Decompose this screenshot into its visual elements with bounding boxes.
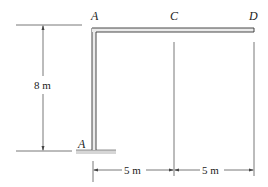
arrowhead-right-icon [249, 169, 254, 172]
point-label-d: D [248, 9, 258, 23]
arrowhead-down-icon [42, 146, 45, 151]
span-bc-label: 5 m [124, 164, 141, 176]
arrowhead-left-icon [93, 169, 98, 172]
arrowhead-left-icon [174, 169, 179, 172]
point-label-b: A [90, 9, 99, 23]
point-label-a: A [77, 137, 86, 151]
arrowhead-right-icon [169, 169, 174, 172]
beam-bd [92, 28, 254, 32]
point-label-c: C [170, 9, 179, 23]
span-cd-label: 5 m [202, 164, 219, 176]
frame-diagram: 8 m 5 m 5 m A C D A [0, 0, 268, 187]
arrowhead-up-icon [42, 25, 45, 30]
height-dimension-label: 8 m [34, 79, 51, 91]
column-ab [92, 28, 96, 150]
